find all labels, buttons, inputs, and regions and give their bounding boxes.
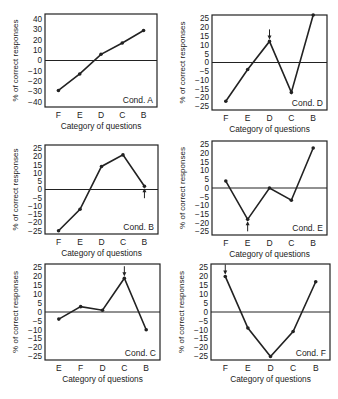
y-tick-label: −15: [195, 210, 209, 219]
y-tick-label: 5: [203, 299, 208, 308]
y-axis-label: % of correct responses: [178, 22, 187, 104]
data-point: [246, 68, 250, 72]
y-tick-label: 20: [200, 149, 210, 158]
y-tick-label: 0: [204, 184, 209, 193]
x-tick-label: E: [245, 363, 251, 373]
y-tick-label: −15: [195, 85, 209, 94]
data-point: [120, 41, 124, 45]
x-tick-label: C: [119, 110, 125, 120]
x-axis-label: Category of questions: [62, 374, 143, 384]
x-tick-label: D: [99, 363, 105, 373]
x-tick-label: C: [120, 237, 126, 247]
y-tick-label: −5: [200, 193, 210, 202]
y-tick-label: −5: [199, 317, 209, 326]
x-tick-label: B: [141, 110, 147, 120]
data-point: [291, 330, 295, 334]
y-tick-label: 0: [37, 56, 42, 65]
arrow-head-icon: [268, 35, 272, 39]
data-point: [142, 29, 146, 33]
data-point: [78, 72, 82, 76]
data-point: [78, 207, 82, 211]
x-axis-label: Category of questions: [230, 374, 311, 384]
x-tick-label: D: [98, 237, 104, 247]
y-tick-label: 0: [203, 308, 208, 317]
y-tick-label: 5: [204, 175, 209, 184]
data-line: [226, 15, 313, 101]
y-tick-label: 15: [200, 32, 210, 41]
x-axis-label: Category of questions: [61, 248, 142, 258]
y-tick-label: 20: [33, 272, 43, 281]
data-point: [57, 229, 61, 233]
y-tick-label: 5: [204, 50, 209, 59]
y-tick-label: −20: [28, 343, 42, 352]
x-tick-label: E: [245, 238, 251, 248]
x-tick-label: D: [267, 363, 273, 373]
condition-label: Cond. A: [123, 95, 154, 105]
y-tick-label: −10: [195, 201, 209, 210]
data-line: [59, 278, 146, 330]
x-axis-label: Category of questions: [229, 249, 310, 259]
x-tick-label: D: [98, 110, 104, 120]
x-tick-label: B: [310, 113, 316, 123]
y-tick-label: 25: [33, 263, 43, 272]
data-point: [79, 305, 83, 309]
data-point: [268, 186, 272, 190]
x-tick-label: C: [288, 113, 294, 123]
x-tick-label: E: [56, 363, 62, 373]
y-tick-label: 10: [33, 290, 43, 299]
y-tick-label: 10: [33, 46, 43, 55]
x-tick-label: B: [143, 363, 149, 373]
y-tick-label: −10: [28, 326, 42, 335]
data-point: [99, 53, 103, 57]
y-tick-label: −25: [194, 352, 208, 361]
panel-cond-d: 2520151050−5−10−15−20−25FEDCBCategory of…: [178, 13, 327, 134]
y-axis-label: % of correct responses: [11, 20, 20, 102]
y-tick-label: 5: [37, 299, 42, 308]
data-point: [224, 179, 228, 183]
x-tick-label: F: [56, 110, 61, 120]
y-tick-label: −25: [195, 227, 209, 236]
y-tick-label: −25: [195, 102, 209, 111]
panel-cond-b: 2520151050−5−10−15−20−25FEDCBCategory of…: [11, 144, 158, 258]
condition-label: Cond. F: [296, 348, 326, 358]
condition-label: Cond. B: [123, 222, 154, 232]
x-tick-label: E: [245, 113, 251, 123]
data-point: [290, 198, 294, 202]
y-tick-label: −15: [28, 334, 42, 343]
y-tick-label: 15: [199, 281, 209, 290]
data-point: [246, 326, 250, 330]
panel-cond-c: 2520151050−5−10−15−20−25EFDCBCategory of…: [11, 263, 160, 384]
y-tick-label: 0: [204, 58, 209, 67]
x-axis-label: Category of questions: [61, 121, 142, 131]
y-tick-label: 30: [33, 25, 43, 34]
x-tick-label: B: [313, 363, 319, 373]
y-tick-label: −20: [195, 219, 209, 228]
y-tick-label: 20: [33, 36, 43, 45]
y-tick-label: 25: [200, 14, 210, 23]
condition-label: Cond. E: [292, 223, 323, 233]
y-tick-label: −20: [194, 343, 208, 352]
data-point: [123, 276, 127, 280]
y-axis-label: % of correct responses: [11, 149, 20, 231]
y-axis-label: % of correct responses: [11, 271, 20, 353]
y-tick-label: −10: [195, 76, 209, 85]
data-point: [57, 89, 61, 93]
x-tick-label: C: [288, 238, 294, 248]
y-tick-label: 0: [37, 308, 42, 317]
figure-six-panels: 403020100−10−20−30−40FEDCBCategory of qu…: [0, 0, 338, 399]
data-point: [269, 355, 273, 359]
y-tick-label: 20: [199, 272, 209, 281]
y-tick-label: −20: [28, 77, 42, 86]
condition-label: Cond. C: [125, 348, 156, 358]
panel-cond-a: 403020100−10−20−30−40FEDCBCategory of qu…: [11, 14, 157, 131]
data-point: [246, 218, 250, 222]
data-point: [311, 13, 315, 17]
y-tick-label: 10: [200, 41, 210, 50]
x-axis-label: Category of questions: [229, 124, 310, 134]
y-tick-label: −30: [28, 87, 42, 96]
condition-label: Cond. D: [292, 98, 323, 108]
x-tick-label: B: [310, 238, 316, 248]
x-tick-label: F: [223, 363, 228, 373]
data-point: [314, 280, 318, 284]
panel-cond-e: 2520151050−5−10−15−20−25FEDCBCategory of…: [178, 140, 327, 259]
